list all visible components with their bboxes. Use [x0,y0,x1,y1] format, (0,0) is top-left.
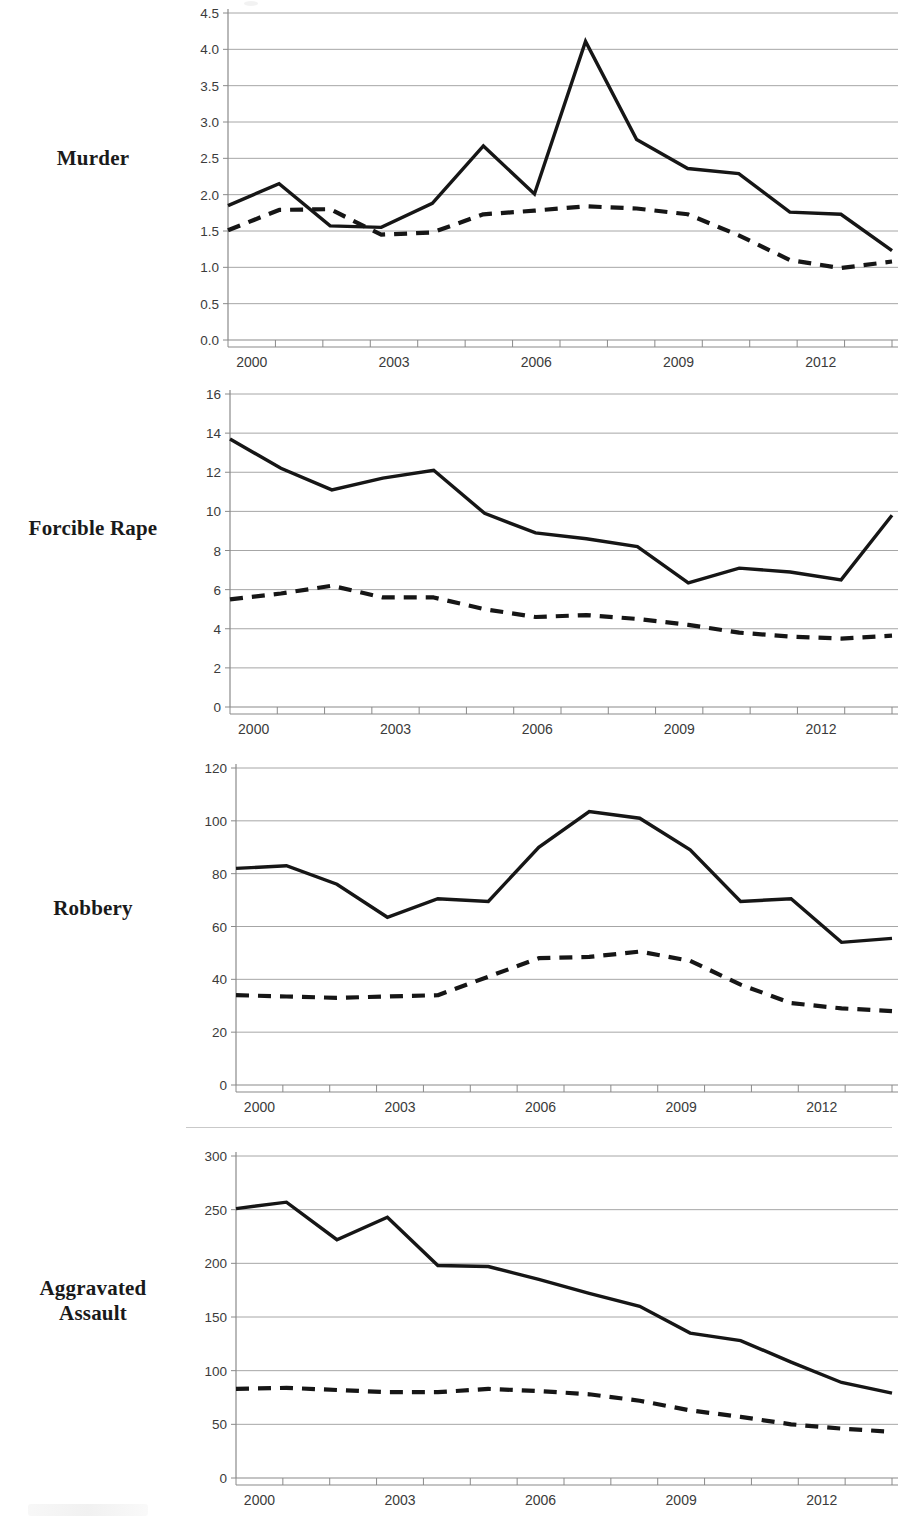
series-line-solid [236,1202,892,1393]
x-tick-label: 2006 [522,721,553,736]
y-tick-label: 0 [213,700,221,715]
x-tick-label: 2006 [521,354,552,370]
x-tick-label: 2003 [378,354,409,370]
panel-label-line: Forcible Rape [0,516,186,541]
y-tick-label: 3.5 [200,79,219,94]
y-tick-label: 3.0 [200,115,219,130]
series-line-dashed [236,1388,892,1432]
x-tick-label: 2009 [663,354,694,370]
x-tick-label: 2012 [805,354,836,370]
y-tick-label: 150 [204,1310,227,1325]
x-tick-label: 2006 [525,1099,556,1115]
series-line-dashed [230,586,892,639]
chart-panel-aggravated-assault: Aggravated Assault 050100150200250300200… [0,1134,898,1514]
y-tick-label: 40 [212,972,227,987]
x-tick-label: 2003 [380,721,411,736]
y-tick-label: 0 [219,1078,227,1093]
series-line-solid [236,812,892,943]
y-tick-label: 8 [213,544,221,559]
plot-area-robbery: 02040608010012020002003200620092012 [186,748,898,1122]
panel-label-murder: Murder [0,146,186,171]
x-tick-label: 2009 [666,1492,697,1508]
y-tick-label: 12 [206,465,221,480]
line-chart-aggravated-assault: 05010015020025030020002003200620092012 [186,1134,898,1514]
scan-artifact-bottom [28,1504,148,1516]
y-tick-label: 0 [219,1471,227,1486]
x-tick-label: 2003 [384,1492,415,1508]
panel-label-forcible-rape: Forcible Rape [0,516,186,541]
y-tick-label: 1.5 [200,224,219,239]
panel-divider [186,1127,892,1128]
y-tick-label: 2.0 [200,188,219,203]
y-tick-label: 6 [213,583,221,598]
y-tick-label: 4 [213,622,221,637]
y-tick-label: 100 [204,814,227,829]
y-tick-label: 20 [212,1025,227,1040]
x-tick-label: 2000 [236,354,267,370]
x-tick-label: 2009 [664,721,695,736]
y-tick-label: 14 [206,426,222,441]
y-tick-label: 1.0 [200,260,219,275]
y-tick-label: 2 [213,661,221,676]
y-tick-label: 60 [212,920,227,935]
panel-label-line: Assault [0,1301,186,1326]
y-tick-label: 0.0 [200,333,219,348]
x-tick-label: 2003 [384,1099,415,1115]
y-tick-label: 250 [204,1203,227,1218]
y-tick-label: 2.5 [200,151,219,166]
x-tick-label: 2009 [666,1099,697,1115]
x-tick-label: 2000 [244,1492,275,1508]
y-tick-label: 120 [204,761,227,776]
y-tick-label: 100 [204,1364,227,1379]
line-chart-forcible-rape: 024681012141620002003200620092012 [186,376,898,736]
y-tick-label: 4.0 [200,42,219,57]
plot-area-murder: 0.00.51.01.52.02.53.03.54.04.52000200320… [186,0,898,372]
series-line-solid [228,41,892,250]
x-tick-label: 2012 [805,721,836,736]
x-tick-label: 2012 [806,1099,837,1115]
y-tick-label: 200 [204,1256,227,1271]
x-tick-label: 2006 [525,1492,556,1508]
y-tick-label: 0.5 [200,297,219,312]
panel-label-line: Aggravated [0,1276,186,1301]
panel-label-robbery: Robbery [0,896,186,921]
y-tick-label: 16 [206,387,221,402]
y-tick-label: 80 [212,867,227,882]
x-tick-label: 2000 [238,721,269,736]
chart-panel-robbery: Robbery 02040608010012020002003200620092… [0,748,898,1122]
line-chart-robbery: 02040608010012020002003200620092012 [186,748,898,1122]
plot-area-forcible-rape: 024681012141620002003200620092012 [186,376,898,736]
y-tick-label: 300 [204,1149,227,1164]
y-tick-label: 4.5 [200,6,219,21]
panel-label-line: Murder [0,146,186,171]
chart-panel-forcible-rape: Forcible Rape 02468101214162000200320062… [0,376,898,736]
x-tick-label: 2000 [244,1099,275,1115]
x-tick-label: 2012 [806,1492,837,1508]
chart-panel-murder: Murder 0.00.51.01.52.02.53.03.54.04.5200… [0,0,898,372]
plot-area-aggravated-assault: 05010015020025030020002003200620092012 [186,1134,898,1514]
series-line-dashed [228,206,892,268]
panel-label-line: Robbery [0,896,186,921]
series-line-dashed [236,952,892,1011]
scan-artifact-top [244,1,258,6]
y-tick-label: 50 [212,1417,227,1432]
line-chart-murder: 0.00.51.01.52.02.53.03.54.04.52000200320… [186,0,898,372]
y-tick-label: 10 [206,504,221,519]
panel-label-aggravated-assault: Aggravated Assault [0,1276,186,1326]
